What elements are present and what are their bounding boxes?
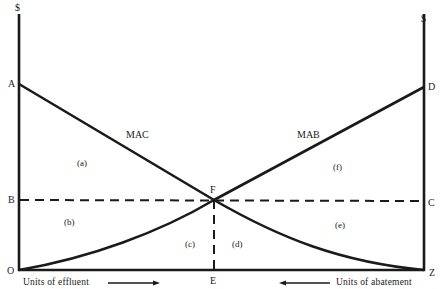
point-z-label: Z [429, 267, 435, 278]
marginal-abatement-diagram: $ $ A B O D C Z F E MAC MAB (a) (b) (c) … [0, 0, 443, 289]
point-a-label: A [8, 78, 16, 89]
area-e-label: (e) [335, 220, 345, 230]
point-f-label: F [210, 184, 216, 195]
area-f-label: (f) [333, 162, 342, 172]
mab-curve-label: MAB [297, 129, 320, 140]
left-arrow-icon [279, 281, 330, 286]
mab-curve [19, 87, 424, 270]
area-b-label: (b) [64, 217, 75, 227]
area-d-label: (d) [232, 239, 243, 249]
right-arrow-icon [108, 281, 160, 286]
point-o-label: O [7, 265, 14, 276]
right-axis-unit: $ [421, 13, 426, 24]
area-c-label: (c) [185, 239, 195, 249]
mac-curve [19, 84, 424, 270]
point-e-label: E [210, 275, 216, 286]
point-c-label: C [428, 197, 435, 208]
left-axis-unit: $ [15, 2, 20, 13]
price-line-bc [20, 200, 423, 201]
point-d-label: D [428, 81, 435, 92]
units-of-abatement-label: Units of abatement [336, 277, 412, 287]
mac-curve-label: MAC [126, 129, 149, 140]
units-of-effluent-label: Units of effluent [23, 277, 89, 287]
point-b-label: B [8, 194, 15, 205]
area-a-label: (a) [77, 158, 87, 168]
